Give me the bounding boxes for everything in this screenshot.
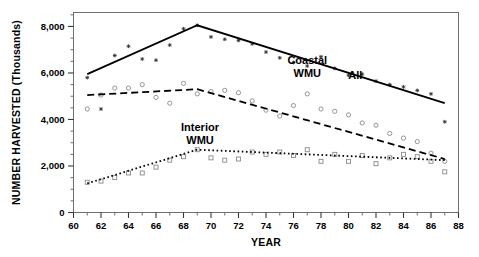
data-point-star bbox=[168, 43, 172, 47]
data-point-circle bbox=[168, 101, 172, 105]
data-point-star bbox=[127, 44, 131, 48]
y-axis-title: NUMBER HARVESTED (Thousands) bbox=[10, 20, 22, 205]
series-label-all: All bbox=[348, 69, 362, 81]
data-point-star bbox=[415, 89, 419, 93]
data-point-square bbox=[237, 157, 241, 161]
trend-line-all bbox=[87, 25, 445, 103]
x-tick-label: 74 bbox=[261, 220, 272, 231]
data-point-square bbox=[305, 148, 309, 152]
data-point-circle bbox=[195, 92, 199, 96]
data-point-circle bbox=[319, 107, 323, 111]
data-point-circle bbox=[278, 114, 282, 118]
data-point-circle bbox=[140, 82, 144, 86]
series-points-coastal-wmu bbox=[85, 81, 447, 163]
data-point-circle bbox=[85, 107, 89, 111]
x-tick-label: 72 bbox=[233, 220, 244, 231]
data-point-star bbox=[429, 92, 433, 96]
x-tick-label: 60 bbox=[68, 220, 79, 231]
data-point-circle bbox=[346, 113, 350, 117]
series-label-line: WMU bbox=[186, 134, 214, 146]
series-label-line: All bbox=[348, 69, 362, 81]
data-point-circle bbox=[415, 139, 419, 143]
x-tick-label: 78 bbox=[316, 220, 327, 231]
x-tick-label: 66 bbox=[151, 220, 162, 231]
data-point-circle bbox=[113, 86, 117, 90]
series-label-coastal-wmu: CoastalWMU bbox=[287, 54, 327, 79]
data-point-circle bbox=[360, 121, 364, 125]
x-tick-label: 70 bbox=[206, 220, 217, 231]
x-tick-label: 62 bbox=[96, 220, 107, 231]
series-label-line: Interior bbox=[181, 121, 220, 133]
data-point-square bbox=[319, 159, 323, 163]
x-tick-label: 82 bbox=[371, 220, 382, 231]
data-point-circle bbox=[291, 103, 295, 107]
data-point-circle bbox=[126, 86, 130, 90]
data-point-star bbox=[278, 56, 282, 60]
data-point-star bbox=[402, 85, 406, 89]
data-point-circle bbox=[401, 136, 405, 140]
data-point-circle bbox=[305, 92, 309, 96]
data-point-square bbox=[402, 152, 406, 156]
data-point-square bbox=[347, 159, 351, 163]
data-point-square bbox=[374, 162, 378, 166]
x-tick-label: 68 bbox=[178, 220, 189, 231]
x-tick-label: 80 bbox=[343, 220, 354, 231]
data-point-square bbox=[209, 156, 213, 160]
x-tick-label: 64 bbox=[123, 220, 134, 231]
x-axis-title: YEAR bbox=[251, 236, 281, 248]
x-tick-label: 84 bbox=[398, 220, 409, 231]
y-tick-label: 6,000 bbox=[41, 67, 65, 78]
x-tick-label: 88 bbox=[453, 220, 464, 231]
data-point-star bbox=[85, 76, 89, 80]
data-point-square bbox=[140, 171, 144, 175]
chart-container: 02,0004,0006,0008,0006062646668707274767… bbox=[0, 0, 479, 257]
data-point-circle bbox=[181, 81, 185, 85]
data-point-star bbox=[443, 120, 447, 124]
data-point-star bbox=[140, 57, 144, 61]
data-point-circle bbox=[154, 95, 158, 99]
series-points-interior-wmu bbox=[85, 148, 447, 185]
y-tick-label: 4,000 bbox=[41, 114, 65, 125]
data-point-star bbox=[209, 35, 213, 39]
y-tick-label: 0 bbox=[59, 207, 64, 218]
series-label-line: WMU bbox=[294, 67, 322, 79]
series-label-interior-wmu: InteriorWMU bbox=[181, 121, 220, 146]
data-point-circle bbox=[223, 88, 227, 92]
series-label-line: Coastal bbox=[287, 54, 327, 66]
data-point-star bbox=[223, 37, 227, 41]
trend-line-coastal-wmu bbox=[87, 89, 445, 159]
data-point-circle bbox=[250, 99, 254, 103]
data-point-star bbox=[154, 58, 158, 62]
data-point-circle bbox=[374, 123, 378, 127]
data-point-square bbox=[154, 165, 158, 169]
data-point-square bbox=[113, 176, 117, 180]
data-point-circle bbox=[388, 131, 392, 135]
data-point-star bbox=[264, 50, 268, 54]
data-point-square bbox=[443, 170, 447, 174]
data-point-square bbox=[223, 158, 227, 162]
y-tick-label: 2,000 bbox=[41, 160, 65, 171]
data-point-circle bbox=[333, 109, 337, 113]
x-tick-label: 76 bbox=[288, 220, 299, 231]
y-tick-label: 8,000 bbox=[41, 21, 65, 32]
data-point-circle bbox=[236, 91, 240, 95]
x-tick-label: 86 bbox=[426, 220, 437, 231]
data-point-square bbox=[415, 155, 419, 159]
data-point-star bbox=[113, 54, 117, 58]
trend-line-interior-wmu bbox=[87, 150, 445, 184]
data-point-square bbox=[182, 155, 186, 159]
harvest-trend-chart: 02,0004,0006,0008,0006062646668707274767… bbox=[0, 0, 479, 257]
data-point-star bbox=[99, 107, 103, 111]
